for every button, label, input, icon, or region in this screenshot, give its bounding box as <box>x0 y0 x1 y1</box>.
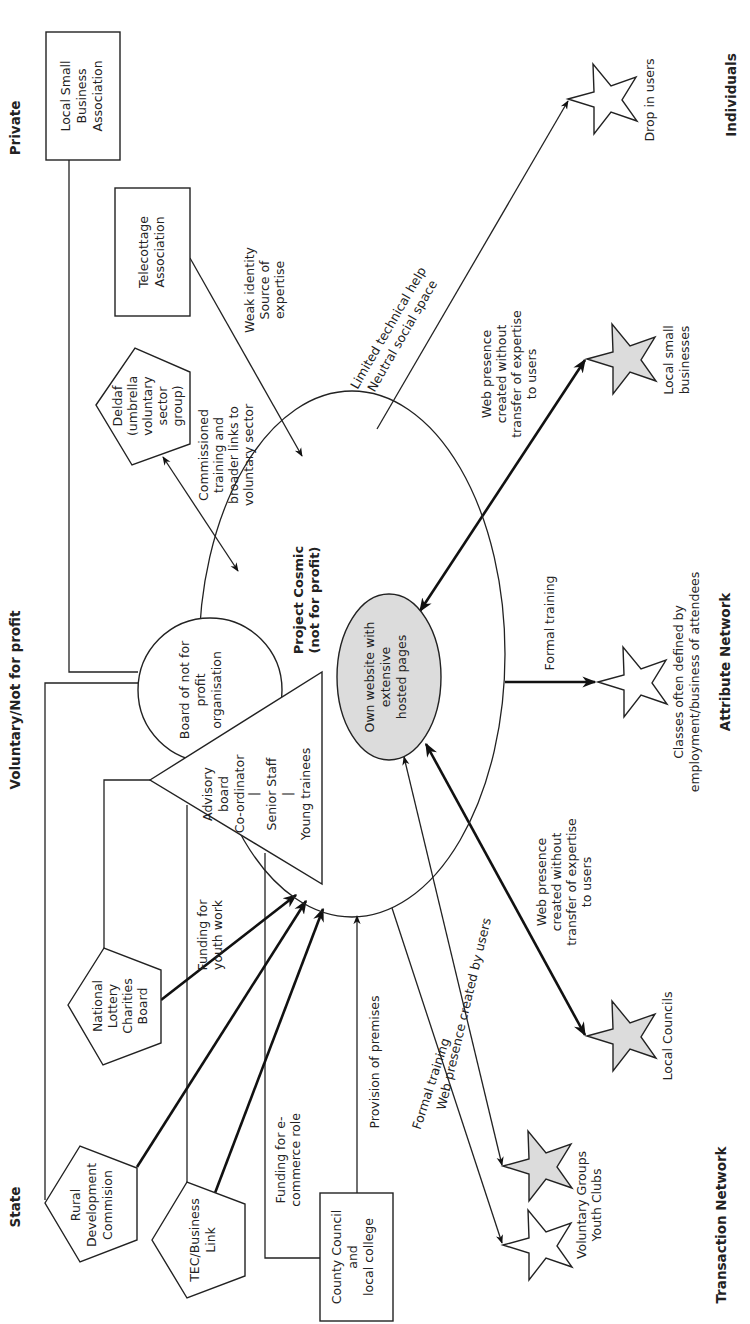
lsb-line2: businesses <box>677 326 692 395</box>
network-individuals: Individuals <box>723 53 739 136</box>
tec-line1: TEC/Business <box>187 1198 202 1283</box>
network-headers: Individuals Attribute Network Transactio… <box>713 53 739 1303</box>
label-web-lsb-3: transfer of expertise <box>509 310 524 438</box>
sector-private: Private <box>7 101 23 156</box>
node-telecottage: Telecottage Association <box>115 188 190 316</box>
rural-line1: Rural <box>68 1189 83 1221</box>
deldaf-line3: voluntary <box>140 376 155 436</box>
board-line2: profit <box>193 673 208 706</box>
lottery-line3: Charities <box>120 978 135 1034</box>
star-icon-youth <box>503 1131 572 1201</box>
star-icon <box>598 647 667 717</box>
board-line1: Board of not for <box>177 640 192 739</box>
label-funding-ecommerce-1: Funding for e- <box>273 1117 288 1204</box>
label-formal-training-classes: Formal training <box>542 575 557 670</box>
star-voluntary-groups: Voluntary Groups Youth Clubs <box>503 1131 604 1280</box>
lsba-line1: Local Small <box>58 60 73 131</box>
label-web-lsb-4: to users <box>524 349 539 399</box>
label-commissioned-2: training and <box>211 417 226 493</box>
triangle-young-trainees: Young trainees <box>298 748 313 841</box>
lsba-line2: Business <box>74 68 89 123</box>
network-attribute: Attribute Network <box>717 592 733 732</box>
line-lottery-to-triangle <box>104 780 150 950</box>
deldaf-line2: (umbrella <box>125 376 140 436</box>
network-diagram: Private Voluntary/Not for profit State I… <box>0 0 750 1324</box>
tec-line2: Link <box>203 1226 218 1252</box>
classes-line1: Classes often defined by <box>671 605 686 759</box>
lottery-line4: Board <box>135 988 150 1025</box>
triangle-sep1: | <box>246 792 261 796</box>
sector-state: State <box>7 1187 23 1228</box>
label-commissioned-4: voluntary sector <box>241 403 256 506</box>
label-web-councils-3: transfer of expertise <box>564 818 579 946</box>
label-web-presence-users: Web presence created by users <box>433 916 494 1111</box>
triangle-board: board <box>216 776 231 812</box>
website-line1: Own website with <box>362 622 377 733</box>
local-councils-label: Local Councils <box>660 992 675 1081</box>
arrow-tec-funding <box>215 909 323 1193</box>
deldaf-line1: Deldaf <box>110 385 125 426</box>
node-tec-business-link: TEC/Business Link <box>152 1182 245 1298</box>
label-weak-identity-2: Source of <box>257 260 272 320</box>
lsb-line1: Local small <box>661 325 676 395</box>
label-web-lsb-2: created without <box>494 325 509 424</box>
star-icon <box>587 1001 656 1071</box>
triangle-sep2: | <box>280 792 295 796</box>
label-funding-youth-1: Funding for <box>195 899 210 971</box>
star-icon-voluntary <box>503 1210 572 1280</box>
node-deldaf: Deldaf (umbrella voluntary sector group) <box>96 348 190 465</box>
label-funding-youth-2: youth work <box>210 899 225 970</box>
lottery-line1: National <box>90 980 105 1032</box>
county-line3: local college <box>361 1218 376 1296</box>
voluntary-groups-line1: Voluntary Groups <box>574 1151 589 1259</box>
label-provision-premises: Provision of premises <box>367 995 382 1128</box>
voluntary-groups-line2: Youth Clubs <box>589 1169 604 1243</box>
triangle-advisory: Advisory <box>200 766 215 820</box>
label-weak-identity-1: Weak identity <box>242 246 257 332</box>
project-cosmic-title: Project Cosmic <box>291 546 306 655</box>
deldaf-line5: group) <box>170 385 185 426</box>
node-local-small-business-assoc: Local Small Business Association <box>46 32 120 160</box>
label-web-councils-1: Web presence <box>534 837 549 926</box>
deldaf-line4: sector <box>155 386 170 426</box>
label-web-councils-2: created without <box>549 833 564 932</box>
project-cosmic-subtitle: (not for profit) <box>307 547 322 654</box>
triangle-coordinator: Co-ordinator <box>232 754 247 833</box>
website-node: Own website with extensive hosted pages <box>337 594 441 760</box>
lsba-line3: Association <box>90 60 105 131</box>
line-rural-to-board <box>45 683 138 1200</box>
website-line3: hosted pages <box>394 635 409 719</box>
telecottage-line1: Telecottage <box>136 216 151 289</box>
website-line2: extensive <box>378 646 393 707</box>
classes-line2: employment/business of attendees <box>687 572 702 793</box>
label-web-lsb-1: Web presence <box>479 329 494 418</box>
star-local-small-businesses: Local small businesses <box>587 324 692 395</box>
label-commissioned-3: broader links to <box>226 406 241 504</box>
rural-line2: Development <box>84 1163 99 1247</box>
triangle-senior-staff: Senior Staff <box>264 757 279 830</box>
star-drop-in-users: Drop in users <box>568 58 657 141</box>
arrow-drop-in-users <box>377 101 568 429</box>
star-classes: Classes often defined by employment/busi… <box>598 572 702 793</box>
star-icon <box>568 64 637 134</box>
telecottage-line2: Association <box>152 216 167 287</box>
node-national-lottery: National Lottery Charities Board <box>68 948 161 1065</box>
sector-headers: Private Voluntary/Not for profit State <box>7 101 23 1228</box>
lottery-line2: Lottery <box>105 983 120 1028</box>
node-rural-development: Rural Development Commision <box>45 1146 137 1262</box>
node-county-council: County Council and local college <box>320 1193 393 1321</box>
network-transaction: Transaction Network <box>713 1145 729 1303</box>
label-web-councils-4: to users <box>579 857 594 907</box>
county-line1: County Council <box>329 1210 344 1305</box>
star-icon <box>587 324 656 394</box>
board-line3: organisation <box>209 651 224 729</box>
label-funding-ecommerce-2: commerce role <box>288 1113 303 1207</box>
drop-in-users-label: Drop in users <box>642 58 657 141</box>
label-weak-identity-3: expertise <box>272 261 287 320</box>
rural-line3: Commision <box>100 1170 115 1240</box>
county-line2: and <box>345 1245 360 1269</box>
sector-voluntary: Voluntary/Not for profit <box>7 610 23 790</box>
star-local-councils: Local Councils <box>587 992 675 1081</box>
label-commissioned-1: Commissioned <box>196 409 211 501</box>
